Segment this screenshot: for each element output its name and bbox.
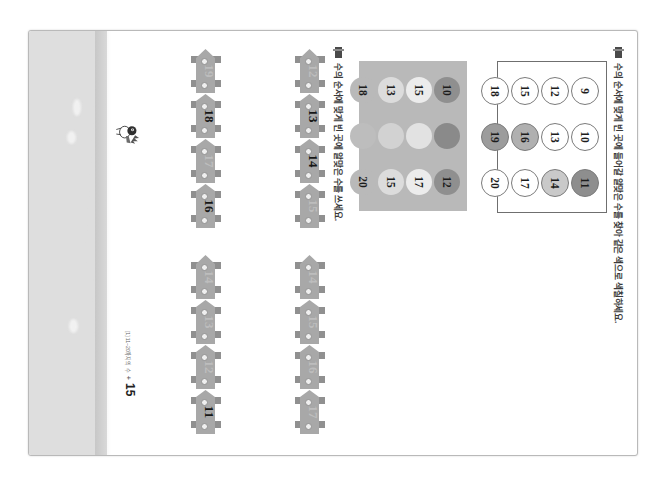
grid-number-circle[interactable]: 9 (571, 77, 599, 105)
train-car-number[interactable]: 13 (305, 94, 321, 138)
footer-unit-label: [1] 11~20까지의 수 (125, 331, 132, 372)
palette-number-circle[interactable]: 15 (406, 77, 432, 103)
grid-number-circle[interactable]: 15 (511, 77, 539, 105)
train-car[interactable]: 16 (191, 184, 221, 228)
palette-color-swatch[interactable] (350, 123, 376, 149)
train-car[interactable]: 16 (295, 345, 325, 389)
train-bottom-left: 19181716 (191, 49, 221, 229)
question-marker-icon (334, 47, 345, 58)
grid-number-circle[interactable]: 17 (511, 169, 539, 197)
palette-color-swatch[interactable] (434, 123, 460, 149)
train-car-number[interactable]: 17 (305, 390, 321, 434)
train-car[interactable]: 18 (191, 94, 221, 138)
question-marker-icon (614, 47, 625, 58)
worksheet-rotation-wrapper: 수의 순서에 맞게 빈 곳에 들어갈 알맞은 수를 찾아 같은 색으로 색칠하세… (107, 31, 637, 455)
footer-plus-icon: + (124, 375, 133, 380)
scan-blemish (73, 99, 81, 116)
scan-blemish (69, 319, 78, 333)
train-car-number[interactable]: 14 (201, 255, 217, 299)
grid-number-circle[interactable]: 20 (481, 169, 509, 197)
train-car[interactable]: 13 (191, 300, 221, 344)
grid-number-circle[interactable]: 16 (511, 123, 539, 151)
train-car-number[interactable]: 15 (305, 300, 321, 344)
color-palette-grid: 1012151713151820 (366, 68, 460, 204)
grid-number-circle[interactable]: 18 (481, 77, 509, 105)
grid-number-circle[interactable]: 19 (481, 123, 509, 151)
train-car[interactable]: 19 (191, 49, 221, 93)
train-car-number[interactable]: 12 (305, 49, 321, 93)
train-car-number[interactable]: 18 (201, 94, 217, 138)
train-car-number[interactable]: 15 (305, 184, 321, 228)
train-car-number[interactable]: 16 (201, 184, 217, 228)
grid-number-circle[interactable]: 10 (571, 123, 599, 151)
train-car-number[interactable]: 16 (305, 345, 321, 389)
color-palette-panel: 1012151713151820 (359, 61, 467, 211)
palette-number-circle[interactable]: 17 (406, 169, 432, 195)
question-1-text: 수의 순서에 맞게 빈 곳에 들어갈 알맞은 수를 찾아 같은 색으로 색칠하세… (613, 63, 625, 323)
train-exercises: 12131415141516171918171614131211 (125, 49, 325, 441)
train-car-number[interactable]: 17 (201, 139, 217, 183)
train-car-number[interactable]: 19 (201, 49, 217, 93)
palette-number-circle[interactable]: 12 (434, 169, 460, 195)
palette-color-swatch[interactable] (406, 123, 432, 149)
train-car-number[interactable]: 13 (201, 300, 217, 344)
grid-number-circle[interactable]: 12 (541, 77, 569, 105)
train-car[interactable]: 11 (191, 390, 221, 434)
number-grid: 91011121314151617181920 (505, 69, 599, 205)
scanned-page: 수의 순서에 맞게 빈 곳에 들어갈 알맞은 수를 찾아 같은 색으로 색칠하세… (28, 30, 638, 456)
palette-color-swatch[interactable] (378, 123, 404, 149)
train-car[interactable]: 17 (295, 390, 325, 434)
grid-number-circle[interactable]: 14 (541, 169, 569, 197)
train-car[interactable]: 15 (295, 300, 325, 344)
train-bottom-right: 14131211 (191, 255, 221, 435)
train-top-right: 14151617 (295, 255, 325, 435)
train-car[interactable]: 12 (191, 345, 221, 389)
train-car[interactable]: 12 (295, 49, 325, 93)
train-car[interactable]: 15 (295, 184, 325, 228)
palette-number-circle[interactable]: 13 (378, 77, 404, 103)
train-car-number[interactable]: 14 (305, 255, 321, 299)
question-1-heading: 수의 순서에 맞게 빈 곳에 들어갈 알맞은 수를 찾아 같은 색으로 색칠하세… (613, 47, 625, 323)
train-car[interactable]: 17 (191, 139, 221, 183)
scan-blemish (67, 131, 76, 144)
question-2-heading: 수의 순서에 맞게 빈 곳에 알맞은 수를 쓰세요. (333, 47, 345, 221)
page-footer: [1] 11~20까지의 수 + 15 (123, 331, 137, 396)
train-car[interactable]: 14 (295, 139, 325, 183)
train-car-number[interactable]: 12 (201, 345, 217, 389)
train-top-left: 12131415 (295, 49, 325, 229)
train-car[interactable]: 14 (295, 255, 325, 299)
number-grid-panel: 91011121314151617181920 (497, 61, 607, 213)
page-number: 15 (123, 383, 137, 396)
worksheet-page: 수의 순서에 맞게 빈 곳에 들어갈 알맞은 수를 찾아 같은 색으로 색칠하세… (107, 31, 637, 455)
grid-number-circle[interactable]: 13 (541, 123, 569, 151)
train-car[interactable]: 13 (295, 94, 325, 138)
palette-number-circle[interactable]: 20 (350, 169, 376, 195)
grid-number-circle[interactable]: 11 (571, 169, 599, 197)
train-car-number[interactable]: 14 (305, 139, 321, 183)
palette-number-circle[interactable]: 18 (350, 77, 376, 103)
palette-number-circle[interactable]: 10 (434, 77, 460, 103)
question-2-text: 수의 순서에 맞게 빈 곳에 알맞은 수를 쓰세요. (333, 63, 345, 221)
palette-number-circle[interactable]: 15 (378, 169, 404, 195)
train-car[interactable]: 14 (191, 255, 221, 299)
train-car-number[interactable]: 11 (201, 390, 217, 434)
